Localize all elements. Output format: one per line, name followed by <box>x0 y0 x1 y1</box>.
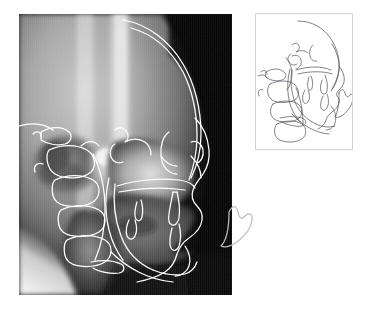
tracing-background <box>256 14 352 149</box>
radiograph-panel[interactable] <box>19 14 232 295</box>
figure-root <box>0 0 372 312</box>
film-grain <box>19 14 232 295</box>
cephalometric-tracing <box>256 14 352 149</box>
lateral-cephalometric-radiograph <box>19 14 232 295</box>
cephalometric-tracing-panel[interactable] <box>255 13 353 150</box>
